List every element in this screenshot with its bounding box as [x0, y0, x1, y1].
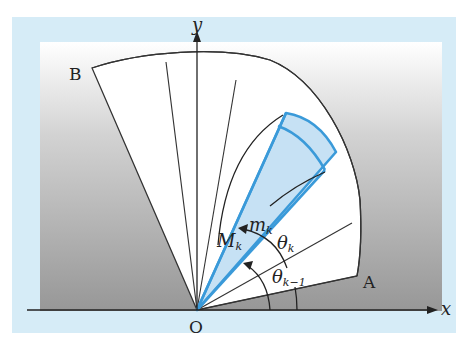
origin-label: O: [189, 317, 203, 337]
polar-sector-diagram: y x O B A Mk mk θk θk−1: [0, 0, 468, 351]
y-axis-label: y: [191, 14, 203, 35]
point-b-label: B: [69, 64, 82, 84]
x-axis-label: x: [441, 298, 451, 319]
point-a-label: A: [362, 272, 376, 292]
